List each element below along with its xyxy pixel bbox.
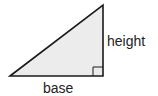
height-label: height	[107, 33, 145, 49]
right-triangle	[10, 5, 103, 76]
triangle-diagram: height base	[0, 0, 158, 96]
base-label: base	[43, 80, 74, 96]
